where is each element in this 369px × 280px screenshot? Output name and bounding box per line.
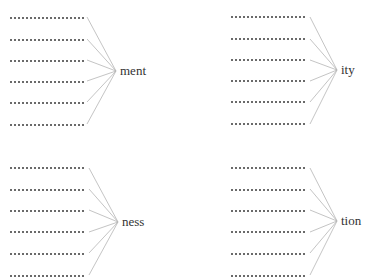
blank-line[interactable] [10,35,84,41]
blank-line[interactable] [231,227,305,233]
blank-line[interactable] [231,97,305,103]
suffix-label: ity [341,63,355,77]
blank-line[interactable] [10,227,84,233]
blank-line[interactable] [231,55,305,61]
blank-line[interactable] [10,185,84,191]
blank-line[interactable] [231,34,305,40]
suffix-label: tion [341,214,361,228]
blank-line[interactable] [10,13,84,19]
blank-line[interactable] [10,271,84,277]
blank-line[interactable] [10,163,84,169]
blank-line[interactable] [231,119,305,125]
suffix-label: ment [120,64,146,78]
blank-line[interactable] [10,77,84,83]
blank-line[interactable] [10,98,84,104]
blank-line[interactable] [10,249,84,255]
blank-line[interactable] [10,206,84,212]
blank-line[interactable] [231,12,305,18]
suffix-group-ity: ity [185,0,369,140]
suffix-group-tion: tion [185,140,369,280]
blank-line[interactable] [231,185,305,191]
blank-line[interactable] [231,76,305,82]
connector-lines [0,0,184,140]
blank-line[interactable] [231,271,305,277]
blank-line[interactable] [231,249,305,255]
suffix-group-ment: ment [0,0,184,140]
blank-line[interactable] [231,163,305,169]
blank-line[interactable] [231,206,305,212]
blank-line[interactable] [10,56,84,62]
suffix-label: ness [122,215,144,229]
blank-line[interactable] [10,120,84,126]
suffix-group-ness: ness [0,140,184,280]
